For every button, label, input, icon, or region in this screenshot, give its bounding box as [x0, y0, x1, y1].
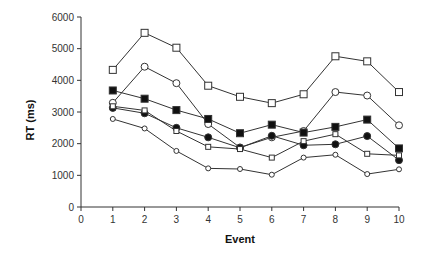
series-filled-circle	[113, 108, 399, 160]
series-filled-square	[113, 90, 399, 148]
x-tick-label: 6	[269, 214, 275, 225]
y-tick-label: 6000	[52, 12, 75, 23]
data-point-square	[142, 108, 147, 113]
line-chart: 0100020003000400050006000 012345678910 R…	[0, 0, 426, 256]
data-point-square	[364, 116, 371, 123]
x-tick-label: 2	[142, 214, 148, 225]
data-point-square	[237, 93, 244, 100]
data-point-circle	[269, 172, 274, 177]
x-tick-label: 0	[78, 214, 84, 225]
data-point-circle	[141, 63, 148, 70]
y-axis-title: RT (ms)	[24, 99, 36, 140]
x-tick-label: 10	[393, 214, 405, 225]
x-tick-label: 4	[205, 214, 211, 225]
data-point-circle	[206, 166, 211, 171]
x-tick-label: 1	[110, 214, 116, 225]
data-point-circle	[173, 80, 180, 87]
x-tick-label: 8	[333, 214, 339, 225]
data-point-square	[110, 104, 115, 109]
data-point-circle	[301, 155, 306, 160]
x-axis: 012345678910	[78, 207, 405, 225]
data-point-circle	[397, 167, 402, 172]
data-point-square	[365, 151, 370, 156]
x-tick-label: 7	[301, 214, 307, 225]
data-point-circle	[396, 122, 403, 129]
data-point-circle	[110, 116, 115, 121]
y-tick-label: 4000	[52, 75, 75, 86]
data-point-circle	[364, 133, 371, 140]
data-point-circle	[332, 141, 339, 148]
y-tick-label: 0	[68, 202, 74, 213]
data-point-circle	[333, 152, 338, 157]
x-tick-label: 5	[237, 214, 243, 225]
data-point-square	[301, 139, 306, 144]
data-point-square	[205, 115, 212, 122]
data-point-square	[173, 44, 180, 51]
data-point-square	[268, 121, 275, 128]
data-point-square	[173, 107, 180, 114]
data-point-circle	[174, 148, 179, 153]
y-tick-label: 3000	[52, 107, 75, 118]
x-axis-title: Event	[225, 233, 255, 245]
series-open-circle-large	[113, 67, 399, 148]
data-point-square	[332, 123, 339, 130]
y-tick-label: 5000	[52, 43, 75, 54]
data-point-square	[238, 147, 243, 152]
data-point-square	[396, 145, 403, 152]
data-point-square	[300, 91, 307, 98]
data-point-circle	[142, 126, 147, 131]
data-point-square	[269, 155, 274, 160]
data-point-square	[109, 87, 116, 94]
data-point-square	[364, 58, 371, 65]
data-point-square	[333, 132, 338, 137]
data-point-square	[141, 29, 148, 36]
series-open-square-large	[113, 33, 399, 103]
data-point-square	[332, 53, 339, 60]
data-point-square	[396, 89, 403, 96]
series-layer	[109, 29, 402, 177]
data-point-circle	[365, 172, 370, 177]
data-point-circle	[205, 134, 212, 141]
series-open-square-small	[113, 106, 399, 157]
x-tick-label: 3	[174, 214, 180, 225]
markers-open-square-small	[110, 104, 401, 160]
data-point-square	[268, 100, 275, 107]
data-point-circle	[332, 89, 339, 96]
data-point-square	[206, 144, 211, 149]
data-point-square	[300, 129, 307, 136]
x-tick-label: 9	[364, 214, 370, 225]
y-tick-label: 2000	[52, 138, 75, 149]
data-point-square	[109, 66, 116, 73]
y-tick-label: 1000	[52, 170, 75, 181]
data-point-circle	[364, 92, 371, 99]
data-point-circle	[238, 167, 243, 172]
data-point-square	[141, 95, 148, 102]
data-point-circle	[268, 132, 275, 139]
y-axis: 0100020003000400050006000	[52, 12, 81, 213]
data-point-square	[237, 130, 244, 137]
data-point-square	[174, 129, 179, 134]
data-point-square	[397, 153, 402, 158]
data-point-square	[205, 82, 212, 89]
